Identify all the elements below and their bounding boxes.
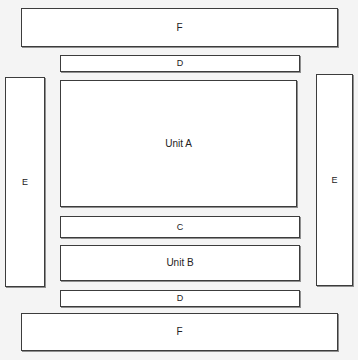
block-d-bottom-label: D [177, 294, 184, 303]
block-f-bottom: F [21, 313, 338, 351]
diagram-canvas: F D E E Unit A C Unit B D F [0, 0, 358, 360]
block-f-top-label: F [176, 23, 182, 33]
block-f-bottom-label: F [176, 327, 182, 337]
block-unit-a: Unit A [60, 80, 297, 207]
block-unit-a-label: Unit A [165, 139, 192, 149]
block-d-top-label: D [177, 59, 184, 68]
block-f-top: F [21, 8, 338, 47]
block-unit-b-label: Unit B [166, 258, 193, 268]
block-e-right-label: E [331, 176, 337, 185]
block-e-left-label: E [22, 178, 28, 187]
block-e-left: E [5, 77, 45, 287]
block-c: C [60, 216, 300, 238]
block-unit-b: Unit B [60, 245, 300, 281]
block-e-right: E [316, 74, 353, 286]
block-d-bottom: D [60, 290, 300, 307]
block-c-label: C [177, 223, 184, 232]
block-d-top: D [60, 55, 300, 72]
